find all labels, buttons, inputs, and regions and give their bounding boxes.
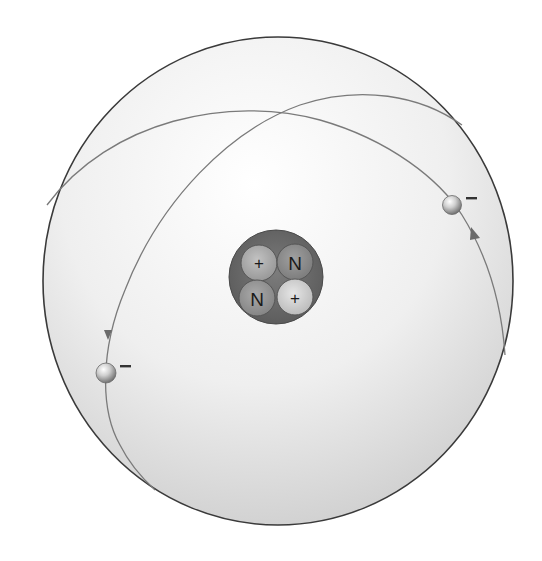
electron-sphere	[96, 363, 116, 383]
proton-charge-label: +	[290, 289, 300, 308]
proton-charge-label: +	[254, 254, 264, 273]
proton-top-left: +	[241, 245, 277, 281]
electron-minus-sign-icon	[466, 197, 477, 199]
atom-diagram: + N N +	[0, 0, 542, 561]
neutron-label: N	[250, 289, 264, 310]
electron-minus-sign-icon	[120, 365, 131, 367]
neutron-top-right: N	[277, 244, 313, 280]
nucleus: + N N +	[229, 230, 323, 324]
proton-bottom-right: +	[277, 279, 313, 315]
electron-sphere	[443, 196, 462, 215]
neutron-bottom-left: N	[239, 280, 275, 316]
neutron-label: N	[288, 253, 302, 274]
atom-diagram-svg: + N N +	[0, 0, 542, 561]
